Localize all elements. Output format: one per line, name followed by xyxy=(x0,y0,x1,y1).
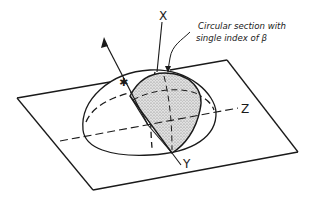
annotation-line-1: Circular section with xyxy=(198,21,286,31)
x-axis-label: X xyxy=(159,9,167,23)
indicatrix-diagram: Z X Y ✱ Circular section with single ind… xyxy=(0,0,315,199)
y-axis-label: Y xyxy=(182,157,191,171)
x-axis xyxy=(157,22,162,72)
z-axis-label: Z xyxy=(241,102,249,116)
annotation-line-2: single index of β xyxy=(196,33,268,43)
annotation-leader xyxy=(168,32,190,70)
optic-axis-point-marker: ✱ xyxy=(119,76,128,89)
